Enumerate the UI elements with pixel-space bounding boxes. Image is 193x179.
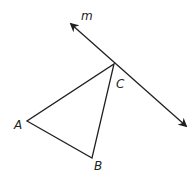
vertex-b-label: B bbox=[94, 159, 102, 173]
line-m-label: m bbox=[81, 9, 93, 23]
vertex-a-label: A bbox=[13, 118, 22, 132]
vertex-c-label: C bbox=[116, 77, 125, 91]
geometry-diagram: m A B C bbox=[0, 0, 193, 179]
line-m bbox=[71, 24, 186, 126]
triangle-abc bbox=[27, 64, 114, 158]
